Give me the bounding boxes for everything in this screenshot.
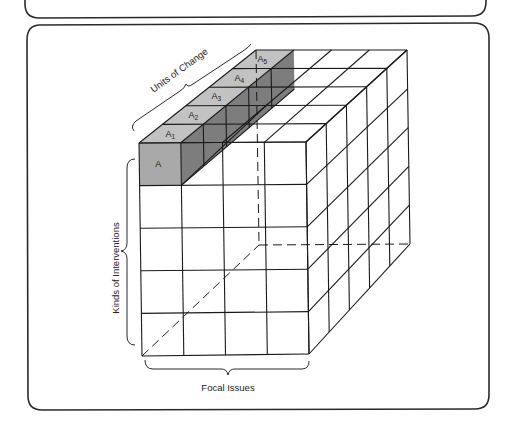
side-vertical-line xyxy=(326,124,329,332)
diagram-canvas: AA1A2A3A4A5 Units of Change Kinds of Int… xyxy=(0,0,516,436)
row-side-divider xyxy=(226,106,227,147)
kinds-of-interventions-brace xyxy=(121,159,135,345)
units-of-change-label: Units of Change xyxy=(148,46,210,95)
top-cross-line xyxy=(186,105,347,106)
kinds-of-interventions-label: Kinds of Interventions xyxy=(110,222,121,314)
front-vertical-line xyxy=(264,142,267,354)
side-depth-line xyxy=(308,166,409,269)
front-vertical-line xyxy=(223,143,226,356)
hidden-back-bottom-edge xyxy=(259,244,410,245)
side-depth-line xyxy=(308,205,409,311)
side-vertical-line xyxy=(306,142,309,354)
side-depth-line xyxy=(306,50,407,142)
front-horizontal-line xyxy=(140,227,307,228)
side-depth-line xyxy=(309,244,410,354)
cell-label-a: A xyxy=(155,159,161,169)
focal-issues-brace xyxy=(145,360,309,375)
side-vertical-line xyxy=(387,68,390,266)
hidden-bottom-left-depth-edge xyxy=(142,245,259,356)
side-vertical-line xyxy=(367,87,370,288)
row-side-divider xyxy=(271,69,272,109)
side-depth-line xyxy=(307,128,408,227)
side-vertical-line xyxy=(407,50,410,244)
upper-panel-frame xyxy=(25,0,486,18)
row-side-divider xyxy=(203,124,204,166)
focal-issues-label: Focal Issues xyxy=(201,382,255,393)
side-vertical-line xyxy=(346,105,349,310)
row-side-divider xyxy=(249,87,250,127)
side-depth-line xyxy=(307,89,408,185)
